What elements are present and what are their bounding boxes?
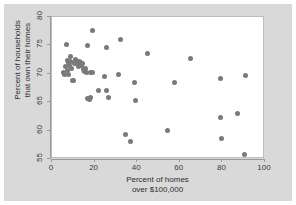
- data-point: [116, 72, 121, 77]
- data-point: [88, 95, 93, 100]
- data-point: [104, 45, 109, 50]
- data-point: [242, 152, 247, 157]
- data-point: [106, 95, 111, 100]
- y-axis-label-line1: Percent of households: [13, 5, 23, 115]
- data-point: [132, 80, 137, 85]
- data-point: [235, 111, 240, 116]
- data-point: [69, 66, 74, 71]
- y-tick-label: 70: [33, 68, 46, 77]
- y-tick-label: 60: [33, 125, 46, 134]
- y-tick-label: 65: [33, 96, 46, 105]
- x-tick-label: 0: [49, 163, 53, 172]
- x-tick-mark: [51, 159, 52, 162]
- data-point: [68, 54, 73, 59]
- x-tick-label: 20: [89, 163, 98, 172]
- data-point: [243, 73, 248, 78]
- x-tick-label: 40: [132, 163, 141, 172]
- data-point: [218, 76, 223, 81]
- y-axis-label-line2: that own their homes: [23, 5, 33, 115]
- x-tick-label: 80: [217, 163, 226, 172]
- y-tick-mark: [47, 44, 50, 45]
- data-point: [133, 98, 138, 103]
- x-tick-label: 60: [174, 163, 183, 172]
- y-tick-mark: [47, 16, 50, 17]
- x-axis-label-line2: over $100,000: [51, 185, 264, 195]
- data-points-layer: [52, 17, 263, 157]
- scatter-plot-figure: 020406080100 556065707580 Percent of hom…: [0, 0, 296, 205]
- x-axis-label-line1: Percent of homes: [51, 175, 264, 185]
- y-axis-label: Percent of households that own their hom…: [13, 5, 33, 115]
- data-point: [64, 42, 69, 47]
- data-point: [85, 43, 90, 48]
- x-tick-label: 100: [257, 163, 270, 172]
- data-point: [80, 61, 85, 66]
- y-tick-label: 80: [33, 11, 46, 20]
- y-tick-mark: [47, 73, 50, 74]
- data-point: [218, 115, 223, 120]
- data-point: [90, 28, 95, 33]
- x-tick-mark: [136, 159, 137, 162]
- y-tick-label: 55: [33, 153, 46, 162]
- data-point: [104, 88, 109, 93]
- data-point: [145, 51, 150, 56]
- data-point: [118, 37, 123, 42]
- data-point: [71, 78, 76, 83]
- y-tick-mark: [47, 130, 50, 131]
- data-point: [90, 70, 95, 75]
- y-tick-mark: [47, 101, 50, 102]
- data-point: [66, 72, 71, 77]
- y-tick-label: 75: [33, 39, 46, 48]
- y-tick-mark: [47, 158, 50, 159]
- data-point: [96, 88, 101, 93]
- x-tick-mark: [264, 159, 265, 162]
- x-tick-mark: [94, 159, 95, 162]
- data-point: [102, 74, 107, 79]
- x-axis-line: [51, 159, 265, 160]
- data-point: [123, 132, 128, 137]
- plot-area: [51, 16, 264, 158]
- data-point: [128, 139, 133, 144]
- data-point: [188, 56, 193, 61]
- data-point: [172, 80, 177, 85]
- x-axis-label: Percent of homes over $100,000: [51, 175, 264, 195]
- data-point: [165, 128, 170, 133]
- data-point: [219, 136, 224, 141]
- x-tick-mark: [221, 159, 222, 162]
- x-tick-mark: [179, 159, 180, 162]
